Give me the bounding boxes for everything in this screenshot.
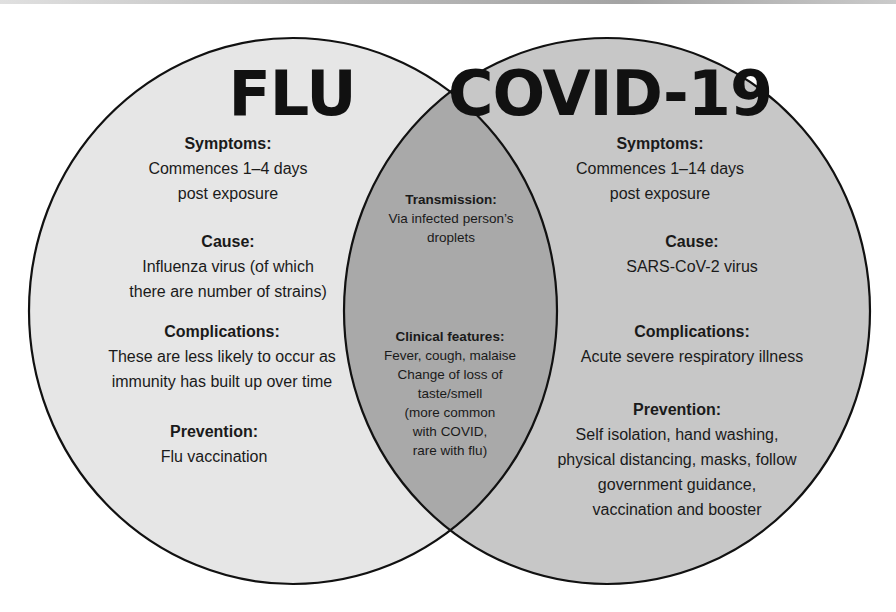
transmission-heading: Transmission:	[389, 190, 514, 209]
flu-symptoms-line: Commences 1–4 days	[148, 156, 307, 181]
covid-prevention-heading: Prevention:	[557, 397, 796, 422]
overlap-transmission: Transmission: Via infected person’s drop…	[389, 190, 514, 247]
covid-symptoms: Symptoms: Commences 1–14 days post expos…	[576, 131, 744, 206]
covid-complications-line: Acute severe respiratory illness	[581, 344, 803, 369]
transmission-line: Via infected person’s	[389, 209, 514, 228]
covid-prevention-line: physical distancing, masks, follow	[557, 447, 796, 472]
clinical-features-line: with COVID,	[384, 422, 516, 441]
flu-prevention: Prevention: Flu vaccination	[161, 419, 268, 469]
covid-title: COVID-19	[448, 58, 772, 130]
clinical-features-line: Change of loss of	[384, 365, 516, 384]
flu-symptoms-heading: Symptoms:	[148, 131, 307, 156]
flu-complications-line: These are less likely to occur as	[108, 344, 336, 369]
covid-complications-heading: Complications:	[581, 319, 803, 344]
covid-complications: Complications: Acute severe respiratory …	[581, 319, 803, 369]
flu-complications-heading: Complications:	[108, 319, 336, 344]
covid-prevention-line: vaccination and booster	[557, 497, 796, 522]
flu-prevention-line: Flu vaccination	[161, 444, 268, 469]
flu-symptoms: Symptoms: Commences 1–4 days post exposu…	[148, 131, 307, 206]
flu-cause: Cause: Influenza virus (of which there a…	[129, 229, 326, 304]
clinical-features-line: rare with flu)	[384, 441, 516, 460]
flu-cause-line: there are number of strains)	[129, 279, 326, 304]
covid-prevention: Prevention: Self isolation, hand washing…	[557, 397, 796, 522]
flu-cause-line: Influenza virus (of which	[129, 254, 326, 279]
clinical-features-heading: Clinical features:	[384, 327, 516, 346]
flu-complications: Complications: These are less likely to …	[108, 319, 336, 394]
flu-complications-line: immunity has built up over time	[108, 369, 336, 394]
covid-symptoms-line: Commences 1–14 days	[576, 156, 744, 181]
clinical-features-line: taste/smell	[384, 384, 516, 403]
overlap-clinical-features: Clinical features: Fever, cough, malaise…	[384, 327, 516, 460]
covid-cause: Cause: SARS-CoV-2 virus	[626, 229, 758, 279]
transmission-line: droplets	[389, 228, 514, 247]
flu-prevention-heading: Prevention:	[161, 419, 268, 444]
covid-prevention-line: government guidance,	[557, 472, 796, 497]
flu-symptoms-line: post exposure	[148, 181, 307, 206]
clinical-features-line: Fever, cough, malaise	[384, 346, 516, 365]
flu-title: FLU	[229, 58, 356, 130]
covid-cause-heading: Cause:	[626, 229, 758, 254]
covid-symptoms-line: post exposure	[576, 181, 744, 206]
flu-cause-heading: Cause:	[129, 229, 326, 254]
clinical-features-line: (more common	[384, 403, 516, 422]
covid-cause-line: SARS-CoV-2 virus	[626, 254, 758, 279]
covid-symptoms-heading: Symptoms:	[576, 131, 744, 156]
covid-prevention-line: Self isolation, hand washing,	[557, 422, 796, 447]
